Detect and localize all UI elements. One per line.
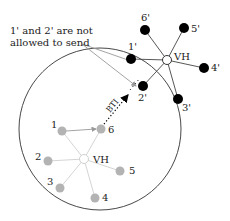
node-4[interactable]	[91, 194, 100, 203]
annotation-line-1: 1' and 2' are not	[10, 25, 93, 36]
inner-cluster-nodes	[44, 125, 125, 203]
label-6: 6	[108, 124, 114, 135]
label-2: 2	[35, 151, 41, 162]
hub-vh-outer[interactable]	[163, 56, 172, 65]
node-2p[interactable]	[138, 81, 148, 91]
label-5: 5	[129, 165, 135, 176]
node-6[interactable]	[97, 125, 106, 134]
label-5p: 5'	[191, 23, 200, 34]
node-3[interactable]	[56, 184, 65, 193]
label-4p: 4'	[211, 62, 220, 73]
label-vh-inner: VH	[92, 154, 109, 165]
label-3: 3	[47, 176, 53, 187]
node-5p[interactable]	[179, 23, 189, 33]
arrow-1-to-6	[66, 129, 96, 131]
label-1p: 1'	[128, 41, 137, 52]
label-vh-outer: VH	[173, 51, 190, 62]
node-5[interactable]	[116, 167, 125, 176]
annotation-line-2: allowed to send	[10, 37, 90, 48]
node-6p[interactable]	[140, 25, 150, 35]
hub-vh-inner[interactable]	[80, 155, 89, 164]
label-3p: 3'	[182, 102, 191, 113]
label-1: 1	[51, 119, 57, 130]
bti-label: BTI	[104, 97, 120, 114]
node-2[interactable]	[44, 157, 53, 166]
node-1[interactable]	[58, 127, 67, 136]
node-4p[interactable]	[199, 63, 209, 73]
network-diagram: BTI 6' 5' 4' 3' 2' 1' VH 1 6 2 5 3 4 VH …	[0, 0, 230, 221]
label-4: 4	[102, 192, 108, 203]
label-2p: 2'	[138, 92, 147, 103]
node-1p[interactable]	[126, 54, 136, 64]
label-6p: 6'	[141, 12, 150, 23]
